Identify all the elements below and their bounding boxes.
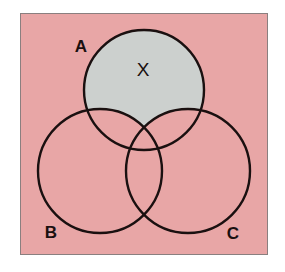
label-set-b: B (45, 223, 57, 242)
shaded-region-fill (21, 14, 268, 255)
venn-diagram-panel: A B C X (20, 13, 268, 255)
figure-root: A B C X (0, 0, 285, 272)
venn-diagram-canvas: A B C X (21, 14, 268, 255)
label-set-c: C (227, 224, 239, 243)
shaded-region-a-only (21, 14, 268, 255)
label-set-a: A (75, 37, 87, 56)
annotation-x-mark: X (137, 59, 150, 80)
